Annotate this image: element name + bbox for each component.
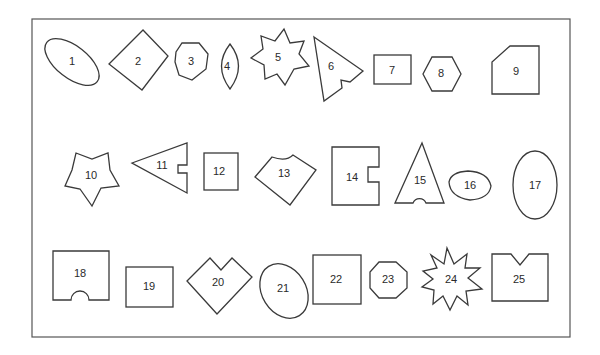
shape-16-egg-shape: 16 [449,171,491,200]
shape-label: 19 [143,280,155,292]
shape-label: 8 [438,67,444,79]
shape-14-notched-rectangle: 14 [332,147,379,205]
shape-label: 16 [464,179,476,191]
shape-15-arched-triangle: 15 [395,143,444,203]
shape-23-octagon: 23 [370,262,407,298]
shape-label: 7 [389,64,395,76]
shape-9-cut-corner-rectangle: 9 [492,46,539,94]
shape-label: 14 [346,171,358,183]
shape-25-v-notched-rectangle: 25 [492,254,548,301]
shape-18-arched-rectangle: 18 [53,251,109,300]
shape-21-ellipse: 21 [250,255,318,328]
shape-2-diamond: 2 [109,30,168,90]
shape-6-notched-triangle: 6 [314,37,363,101]
shape-label: 6 [328,60,334,72]
shape-20-heart-diamond: 20 [187,258,252,314]
shape-12-square: 12 [204,153,238,190]
shape-label: 4 [224,60,230,72]
shape-label: 20 [212,276,224,288]
shape-label: 3 [188,55,194,67]
shape-5-seven-point-star: 5 [251,29,309,85]
shape-7-rectangle: 7 [374,55,411,84]
shape-22-square: 22 [313,255,361,304]
shape-3-octagon: 3 [175,43,208,80]
shape-label: 12 [213,165,225,177]
shape-label: 9 [513,65,519,77]
shape-4-lens: 4 [222,44,239,89]
shape-1-ellipse: 1 [37,30,107,95]
shape-label: 22 [330,273,342,285]
shape-label: 11 [156,159,167,171]
shape-13-pentagon-concave-top: 13 [255,155,316,205]
shape-label: 25 [513,273,525,285]
shape-17-ellipse: 17 [513,151,557,219]
shape-label: 1 [69,55,75,67]
shape-label: 5 [275,51,281,63]
shape-8-hexagon: 8 [423,57,461,91]
shape-label: 23 [382,273,394,285]
shape-label: 10 [85,169,97,181]
shape-19-rectangle: 19 [126,267,173,307]
shape-label: 15 [414,174,426,186]
shape-11-notched-triangle: 11 [132,143,187,193]
shape-label: 17 [529,179,541,191]
shape-label: 13 [278,167,290,179]
shapes-diagram: 1 2 3 4 5 6 7 8 9 10 11 12 [0,0,600,355]
shape-24-ten-point-star: 24 [422,248,482,310]
shape-label: 21 [277,282,289,294]
shape-label: 24 [445,273,457,285]
shape-10-five-point-star: 10 [65,153,119,206]
shape-label: 2 [135,55,141,67]
shape-label: 18 [74,267,86,279]
